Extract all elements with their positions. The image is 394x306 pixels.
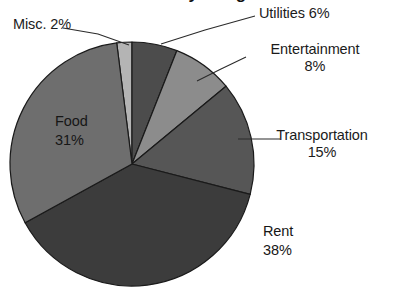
label-transportation-name: Transportation — [254, 127, 390, 144]
label-food-name: Food — [55, 112, 88, 131]
pie-chart-screenshot: Monthly Budget Misc. 2% Utilities 6% Ent… — [0, 0, 394, 306]
label-entertainment: Entertainment 8% — [250, 41, 380, 74]
label-transportation: Transportation 15% — [254, 127, 390, 160]
label-entertainment-name: Entertainment — [250, 41, 380, 58]
pie-slices — [10, 42, 254, 286]
label-food-value: 31% — [55, 131, 88, 150]
label-rent-name: Rent — [263, 222, 293, 241]
label-food: Food 31% — [55, 112, 88, 150]
label-rent-value: 38% — [263, 241, 293, 260]
label-transportation-value: 15% — [254, 144, 390, 161]
label-misc-text: Misc. 2% — [13, 16, 71, 32]
label-entertainment-value: 8% — [250, 58, 380, 75]
label-misc: Misc. 2% — [13, 16, 71, 33]
label-utilities: Utilities 6% — [259, 5, 330, 22]
leader-line-utilities — [161, 16, 255, 44]
label-utilities-text: Utilities 6% — [259, 5, 330, 21]
label-rent: Rent 38% — [263, 222, 293, 260]
